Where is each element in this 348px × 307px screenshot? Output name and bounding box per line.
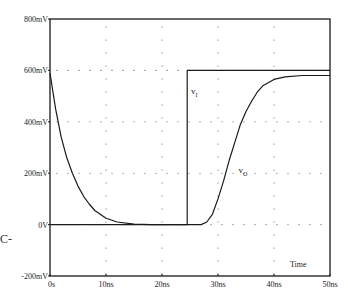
x-tick-label: 20ns [154,280,169,289]
y-tick-label: 600mV [24,66,48,75]
x-tick-label: 40ns [266,280,281,289]
x-axis-label: Time [290,260,307,269]
x-tick-label: 50ns [322,280,337,289]
y-axis-ticks: -200mV0V200mV400mV600mV800mV [21,15,50,281]
y-tick-label: 200mV [24,169,48,178]
x-tick-label: 10ns [98,280,113,289]
grid-dots [56,26,321,274]
x-tick-label: 0s [48,280,55,289]
y-tick-label: 800mV [24,15,48,24]
plot-frame [50,19,330,276]
series-lines [50,70,330,224]
y-tick-label: 0V [38,221,48,230]
x-tick-label: 30ns [210,280,225,289]
series-label-vi: vI [191,86,198,98]
series-vI [50,70,330,224]
series-label-vo: vO [238,165,248,177]
y-tick-label: 400mV [24,118,48,127]
margin-artifact-text: C- [0,232,12,246]
series-vO [50,73,330,225]
transient-plot: -200mV0V200mV400mV600mV800mV 0s10ns20ns3… [0,0,348,307]
y-tick-label: -200mV [21,272,48,281]
